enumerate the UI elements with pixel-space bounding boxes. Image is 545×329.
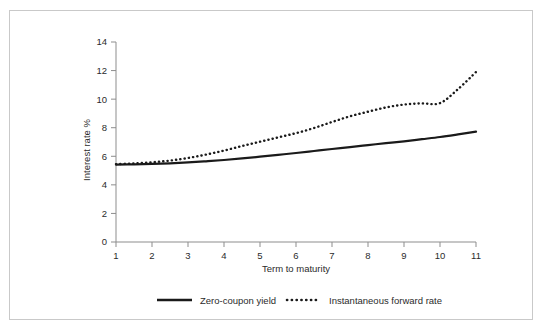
- y-tick-label: 8: [102, 122, 107, 133]
- line-chart: 02468101214 1234567891011 Term to maturi…: [0, 0, 545, 329]
- legend-label-zero-coupon-yield: Zero-coupon yield: [200, 295, 276, 306]
- y-tick-label: 4: [102, 179, 107, 190]
- y-tick-label: 0: [102, 236, 107, 247]
- x-axis: 1234567891011: [113, 242, 481, 261]
- y-tick-label: 6: [102, 151, 107, 162]
- y-tick-label: 10: [96, 94, 107, 105]
- x-tick-label: 2: [149, 250, 154, 261]
- y-axis-title: Interest rate %: [81, 119, 92, 181]
- y-axis-ticks: [111, 42, 116, 242]
- x-tick-label: 8: [365, 250, 370, 261]
- series-instantaneous-forward-rate: [116, 72, 476, 164]
- x-axis-ticks: [116, 242, 476, 247]
- x-tick-label: 9: [401, 250, 406, 261]
- y-axis-tick-labels: 02468101214: [96, 36, 107, 247]
- y-tick-label: 12: [96, 65, 107, 76]
- legend-item-instantaneous-forward-rate: Instantaneous forward rate: [287, 295, 442, 306]
- x-tick-label: 1: [113, 250, 118, 261]
- x-tick-label: 10: [435, 250, 446, 261]
- y-tick-label: 2: [102, 208, 107, 219]
- x-tick-label: 4: [221, 250, 226, 261]
- y-tick-label: 14: [96, 36, 107, 47]
- legend-item-zero-coupon-yield: Zero-coupon yield: [157, 295, 276, 306]
- series-zero-coupon-yield: [116, 132, 476, 165]
- figure-root: 02468101214 1234567891011 Term to maturi…: [0, 0, 545, 329]
- chart-legend: Zero-coupon yield Instantaneous forward …: [157, 295, 442, 306]
- x-tick-label: 5: [257, 250, 262, 261]
- legend-label-instantaneous-forward-rate: Instantaneous forward rate: [329, 295, 442, 306]
- plot-area: [116, 72, 476, 165]
- x-tick-label: 3: [185, 250, 190, 261]
- x-axis-tick-labels: 1234567891011: [113, 250, 481, 261]
- x-tick-label: 6: [293, 250, 298, 261]
- x-axis-title: Term to maturity: [262, 263, 330, 274]
- y-axis: 02468101214: [96, 36, 116, 247]
- x-tick-label: 7: [329, 250, 334, 261]
- x-tick-label: 11: [471, 250, 481, 261]
